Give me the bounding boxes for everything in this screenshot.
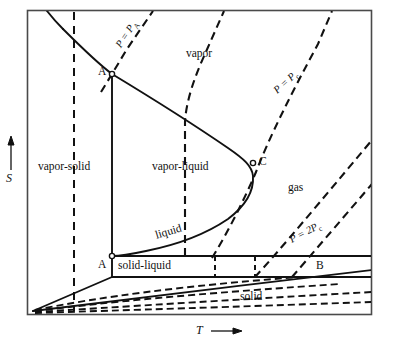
point-marker-A-lower bbox=[109, 253, 114, 258]
phase-diagram-figure: S T vapor-solid vapor-liquid vapor gas l… bbox=[0, 0, 393, 343]
point-label-C: C bbox=[259, 156, 267, 168]
s-axis-arrow-head bbox=[8, 136, 14, 145]
point-label-B: B bbox=[316, 260, 324, 272]
region-label-gas: gas bbox=[288, 182, 303, 194]
x-axis-label: T bbox=[196, 324, 203, 336]
y-axis-label: S bbox=[6, 172, 12, 184]
point-label-A-upper: A bbox=[98, 66, 106, 78]
region-label-vapor: vapor bbox=[186, 48, 212, 60]
region-label-vapor-solid: vapor-solid bbox=[38, 161, 90, 173]
point-label-A-lower: A bbox=[98, 259, 106, 271]
t-axis-arrow-head bbox=[233, 328, 242, 334]
region-label-vapor-liquid: vapor-liquid bbox=[152, 161, 209, 173]
region-label-solid-liquid: solid-liquid bbox=[118, 260, 171, 272]
point-marker-C bbox=[250, 160, 255, 165]
region-label-solid: solid bbox=[240, 291, 262, 303]
point-marker-A-upper bbox=[109, 71, 114, 76]
